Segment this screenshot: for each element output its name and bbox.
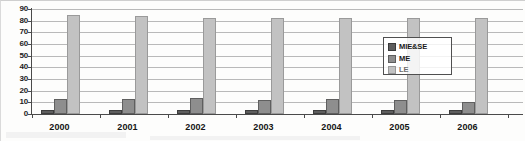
- y-tick-mark: [28, 56, 31, 57]
- x-tick-label: 2004: [299, 122, 364, 132]
- y-tick-label: 0: [4, 110, 28, 118]
- x-tick-mark: [168, 114, 169, 118]
- y-tick-label: 10: [4, 98, 28, 106]
- y-tick-label: 20: [4, 87, 28, 95]
- bar-chart: 9080706050403020100 20002001200220032004…: [0, 0, 525, 141]
- y-tick-mark: [28, 114, 31, 115]
- bar-le: [203, 18, 216, 115]
- bar-group: [177, 9, 214, 114]
- x-axis-line: [31, 114, 523, 115]
- y-tick-label: 70: [4, 28, 28, 36]
- x-tick-label: 2000: [27, 122, 92, 132]
- bar-me: [54, 99, 67, 114]
- y-axis: 9080706050403020100: [0, 0, 28, 141]
- bar-me: [190, 98, 203, 114]
- bar-le: [475, 18, 488, 115]
- bar-me: [462, 102, 475, 115]
- bar-group: [109, 9, 146, 114]
- x-tick-mark: [236, 114, 237, 118]
- chart-screenshot: 9080706050403020100 20002001200220032004…: [0, 0, 525, 141]
- bar-le: [67, 15, 80, 114]
- y-tick-mark: [28, 32, 31, 33]
- x-tick-mark: [372, 114, 373, 118]
- y-tick-label: 60: [4, 40, 28, 48]
- bar-me: [394, 100, 407, 114]
- legend-swatch-icon: [388, 43, 396, 51]
- y-tick-mark: [28, 79, 31, 80]
- x-tick-mark: [32, 114, 33, 118]
- x-tick-label: 2001: [95, 122, 160, 132]
- bar-group: [449, 9, 486, 114]
- x-tick-label: 2003: [231, 122, 296, 132]
- bar-le: [135, 16, 148, 114]
- y-tick-label: 80: [4, 17, 28, 25]
- x-tick-mark: [508, 114, 509, 118]
- bar-me: [258, 100, 271, 114]
- y-tick-mark: [28, 44, 31, 45]
- legend-label: LE: [399, 66, 408, 74]
- x-tick-label: 2005: [367, 122, 432, 132]
- legend-swatch-icon: [388, 55, 396, 63]
- bar-group: [313, 9, 350, 114]
- bar-group: [245, 9, 282, 114]
- y-tick-mark: [28, 102, 31, 103]
- bar-me: [326, 99, 339, 114]
- y-tick-label: 30: [4, 75, 28, 83]
- legend-label: ME: [399, 55, 410, 63]
- x-tick-label: 2002: [163, 122, 228, 132]
- y-tick-label: 90: [4, 5, 28, 13]
- x-tick-mark: [100, 114, 101, 118]
- y-axis-line: [31, 8, 32, 115]
- bar-me: [122, 99, 135, 114]
- x-tick-mark: [440, 114, 441, 118]
- legend-item-mie-se: MIE&SE: [388, 41, 427, 52]
- x-tick-mark: [304, 114, 305, 118]
- y-tick-mark: [28, 67, 31, 68]
- legend-label: MIE&SE: [399, 43, 427, 51]
- chart-legend: MIE&SE ME LE: [383, 37, 452, 75]
- y-tick-mark: [28, 9, 31, 10]
- x-tick-label: 2006: [435, 122, 500, 132]
- legend-item-me: ME: [388, 53, 410, 64]
- bar-group: [41, 9, 78, 114]
- bar-le: [271, 18, 284, 115]
- y-tick-label: 40: [4, 63, 28, 71]
- legend-item-le: LE: [388, 64, 408, 75]
- bar-le: [339, 18, 352, 115]
- y-tick-mark: [28, 91, 31, 92]
- legend-swatch-icon: [388, 66, 396, 74]
- y-tick-mark: [28, 21, 31, 22]
- y-tick-label: 50: [4, 52, 28, 60]
